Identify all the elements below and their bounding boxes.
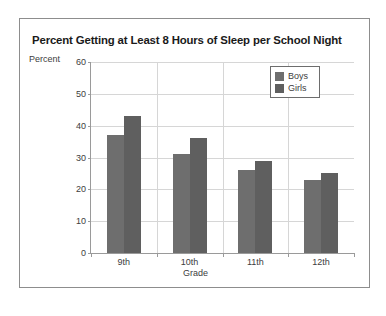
x-tick-mark — [223, 253, 224, 257]
y-tick-label: 40 — [76, 121, 86, 131]
x-tick-label-10th: 10th — [181, 257, 199, 267]
bar-girls-11th — [255, 161, 272, 253]
x-tick-label-11th: 11th — [247, 257, 264, 267]
y-tick-mark — [88, 126, 91, 127]
y-tick-label: 0 — [81, 248, 86, 258]
bar-boys-9th — [107, 135, 124, 253]
y-tick-label: 60 — [76, 57, 86, 67]
y-tick-label: 30 — [76, 153, 86, 163]
legend-label-boys: Boys — [288, 72, 308, 81]
x-tick-mark — [288, 253, 289, 257]
y-tick-mark — [88, 221, 91, 222]
y-tick-mark — [88, 94, 91, 95]
legend-swatch-icon-girls — [275, 84, 284, 93]
legend-item-girls: Girls — [275, 82, 315, 94]
y-tick-label: 50 — [76, 89, 86, 99]
y-tick-label: 20 — [76, 184, 86, 194]
y-tick-mark — [88, 189, 91, 190]
chart-card: Percent Getting at Least 8 Hours of Slee… — [19, 18, 370, 288]
legend-swatch-icon-boys — [275, 72, 284, 81]
y-axis-caption: Percent — [29, 54, 60, 64]
y-tick-label: 10 — [76, 216, 86, 226]
x-tick-mark — [157, 253, 158, 257]
legend-item-boys: Boys — [275, 70, 315, 82]
bar-girls-10th — [190, 138, 207, 253]
bar-girls-12th — [321, 173, 338, 253]
bar-boys-10th — [173, 154, 190, 253]
gridline-vertical — [223, 62, 224, 253]
chart-legend: Boys Girls — [270, 66, 320, 98]
gridline-vertical — [157, 62, 158, 253]
x-tick-mark — [354, 253, 355, 257]
bar-boys-11th — [238, 170, 255, 253]
x-tick-mark — [91, 253, 92, 257]
plot-area: 0102030405060 9th10th11th12th Boys Girls — [90, 62, 354, 254]
legend-label-girls: Girls — [288, 84, 307, 93]
y-tick-mark — [88, 158, 91, 159]
chart-title: Percent Getting at Least 8 Hours of Slee… — [32, 34, 362, 46]
x-tick-label-12th: 12th — [312, 257, 330, 267]
y-tick-mark — [88, 62, 91, 63]
bar-boys-12th — [304, 180, 321, 253]
x-axis-caption: Grade — [20, 268, 371, 278]
bar-girls-9th — [124, 116, 141, 253]
x-tick-label-9th: 9th — [118, 257, 131, 267]
